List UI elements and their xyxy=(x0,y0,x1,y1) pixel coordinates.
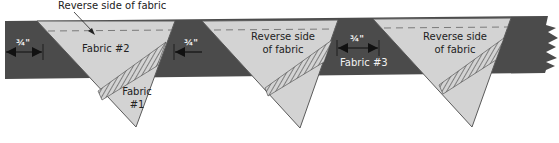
diagram-svg xyxy=(0,0,559,143)
measurement-label-3: ¾" xyxy=(350,33,364,45)
triangle-3-label-line1: Reverse side xyxy=(410,31,500,43)
pennant-diagram: Reverse side of fabric ¾" ¾" ¾" Fabric #… xyxy=(0,0,559,143)
callout-reverse-side: Reverse side of fabric xyxy=(58,0,166,12)
triangle-3-label-line2: of fabric xyxy=(410,44,500,56)
triangle-2-label-line2: of fabric xyxy=(238,44,328,56)
fabric-1-label-line1: Fabric xyxy=(117,86,157,98)
fabric-3-label: Fabric #3 xyxy=(340,57,388,69)
measurement-label-2: ¾" xyxy=(184,37,198,49)
measurement-label-1: ¾" xyxy=(16,37,30,49)
fabric-1-label-line2: #1 xyxy=(117,99,157,111)
triangle-2-label-line1: Reverse side xyxy=(238,31,328,43)
fabric-2-label: Fabric #2 xyxy=(82,43,130,55)
